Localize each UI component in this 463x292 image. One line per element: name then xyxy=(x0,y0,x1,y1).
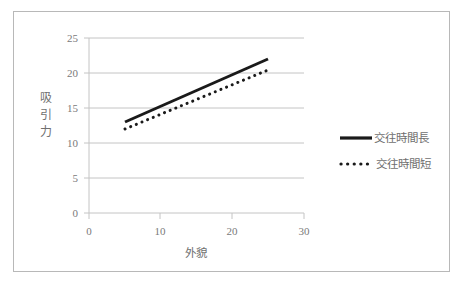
series-line-long-duration xyxy=(125,59,268,122)
gridlines xyxy=(89,38,304,178)
y-tick-label-0: 0 xyxy=(73,207,79,219)
chart-frame: 25 20 15 10 5 0 0 10 20 30 外貌 吸 引 力 交往時間… xyxy=(13,11,450,272)
legend-label-long-duration: 交往時間長 xyxy=(374,131,430,145)
x-tick-label-10: 10 xyxy=(155,225,167,237)
series-line-short-duration xyxy=(125,70,268,129)
legend: 交往時間長 交往時間短 xyxy=(340,131,432,171)
legend-label-short-duration: 交往時間短 xyxy=(376,157,432,171)
bottom-caption xyxy=(0,280,463,290)
x-tick-label-30: 30 xyxy=(299,225,311,237)
x-axis-title: 外貌 xyxy=(185,246,208,260)
y-tick-label-15: 15 xyxy=(67,102,79,114)
x-axis-ticks xyxy=(89,213,304,219)
y-tick-label-20: 20 xyxy=(67,67,79,79)
y-axis-ticks xyxy=(84,38,89,213)
y-axis-title-char-1: 吸 xyxy=(40,91,52,105)
y-tick-label-25: 25 xyxy=(67,32,79,44)
y-axis-title-char-2: 引 xyxy=(40,108,52,122)
y-axis-title-char-3: 力 xyxy=(40,125,52,139)
line-chart: 25 20 15 10 5 0 0 10 20 30 外貌 吸 引 力 交往時間… xyxy=(14,12,451,273)
x-tick-label-20: 20 xyxy=(227,225,239,237)
y-tick-label-10: 10 xyxy=(67,137,79,149)
y-axis-title: 吸 引 力 xyxy=(40,91,52,139)
y-tick-label-5: 5 xyxy=(73,172,79,184)
x-tick-label-0: 0 xyxy=(86,225,92,237)
